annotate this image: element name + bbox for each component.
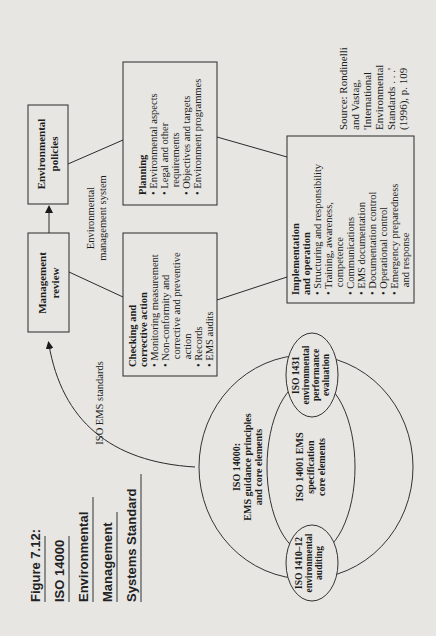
figure-number: Figure 7.12:: [28, 529, 43, 602]
svg-text:corrective and preventive: corrective and preventive: [171, 252, 182, 367]
figure-title: Figure 7.12: ISO 14000 Environmental Man…: [28, 474, 141, 602]
svg-text:ISO 14001 EMS: ISO 14001 EMS: [294, 432, 305, 501]
source-citation: Source: Rondinelli and Vastag, 'Internat…: [337, 47, 410, 130]
svg-text:ISO 1410–12: ISO 1410–12: [294, 537, 304, 589]
svg-text:environmental: environmental: [301, 345, 311, 404]
svg-text:corrective action: corrective action: [138, 292, 149, 367]
svg-text:and operation: and operation: [301, 232, 312, 295]
svg-text:competence: competence: [334, 237, 345, 295]
svg-text:specification: specification: [305, 440, 316, 494]
iso14000-outer-label: ISO 14000: EMS guidance principles and c…: [231, 413, 264, 520]
svg-text:and Vastag,: and Vastag,: [349, 79, 361, 130]
svg-text:ISO 1431: ISO 1431: [291, 356, 301, 394]
svg-text:Environmental: Environmental: [35, 119, 47, 190]
svg-text:Environmental: Environmental: [76, 512, 91, 602]
svg-text:Source: Rondinelli: Source: Rondinelli: [337, 47, 349, 130]
checking-to-review-line: [69, 272, 123, 297]
svg-text:auditing: auditing: [314, 546, 324, 580]
svg-text:• Legal and other: • Legal and other: [159, 122, 170, 195]
svg-text:• Records: • Records: [193, 326, 204, 367]
svg-text:Management: Management: [36, 252, 48, 314]
svg-text:evaluation: evaluation: [321, 353, 331, 396]
svg-text:ISO EMS standards: ISO EMS standards: [94, 361, 105, 444]
svg-text:Checking and: Checking and: [127, 305, 138, 367]
iso14000-diagram: Environmental policies Management review…: [0, 0, 436, 636]
svg-text:• Monitoring measurement: • Monitoring measurement: [149, 254, 160, 367]
svg-text:• Non-conformity and: • Non-conformity and: [160, 274, 171, 367]
svg-text:• EMS documentation: • EMS documentation: [356, 201, 367, 295]
svg-text:(1996), p. 109: (1996), p. 109: [397, 67, 410, 130]
svg-text:• Operational control: • Operational control: [378, 207, 389, 295]
svg-text:• Emergency preparedness: • Emergency preparedness: [389, 184, 400, 295]
svg-text:Planning: Planning: [137, 154, 148, 195]
planning-to-implementation-line: [217, 137, 287, 157]
svg-text:• Training, awareness,: • Training, awareness,: [323, 202, 334, 295]
svg-text:policies: policies: [48, 136, 60, 172]
svg-text:• Objectives and targets: • Objectives and targets: [181, 96, 192, 195]
implementation-text: Implementation and operation • Structuri…: [290, 163, 411, 295]
svg-text:• Environmental aspects: • Environmental aspects: [148, 93, 159, 195]
planning-text: Planning • Environmental aspects • Legal…: [137, 79, 203, 195]
svg-text:environmental: environmental: [304, 533, 314, 592]
svg-text:Systems Standard: Systems Standard: [124, 489, 139, 602]
svg-text:'International: 'International: [361, 72, 373, 130]
svg-text:management system: management system: [97, 175, 108, 260]
svg-text:Environmental: Environmental: [373, 65, 385, 130]
implementation-to-checking-line: [217, 277, 287, 300]
svg-text:• EMS audits: • EMS audits: [204, 311, 215, 367]
iso-ems-standards-label: ISO EMS standards: [94, 361, 105, 444]
svg-text:EMS guidance principles: EMS guidance principles: [242, 413, 253, 520]
svg-text:Management: Management: [100, 522, 115, 602]
svg-text:ISO 14000:: ISO 14000:: [231, 443, 242, 491]
svg-text:performance: performance: [311, 349, 321, 401]
environmental-policies-label: Environmental policies: [35, 119, 60, 190]
figure-page: Environmental policies Management review…: [0, 0, 436, 636]
svg-text:Standards . . .': Standards . . .': [385, 68, 397, 130]
svg-text:• Communications: • Communications: [345, 217, 356, 295]
svg-text:and core elements: and core elements: [253, 429, 264, 506]
svg-text:• Environment programmes: • Environment programmes: [192, 79, 203, 195]
policies-to-planning-line: [68, 140, 123, 164]
management-review-label: Management review: [36, 252, 61, 314]
iso14001-inner-label: ISO 14001 EMS specification core element…: [294, 432, 327, 501]
svg-text:Environmental: Environmental: [85, 187, 96, 249]
svg-text:requirements: requirements: [170, 132, 181, 195]
svg-text:• Structuring and responsibili: • Structuring and responsibility: [312, 163, 323, 295]
svg-text:ISO 14000: ISO 14000: [52, 540, 67, 602]
svg-text:Implementation: Implementation: [290, 223, 301, 295]
svg-text:and response: and response: [400, 232, 411, 295]
ems-label: Environmental management system: [85, 175, 108, 260]
svg-text:core elements: core elements: [316, 438, 327, 496]
svg-text:• Documentation control: • Documentation control: [367, 192, 378, 295]
svg-text:action: action: [182, 333, 193, 367]
svg-text:review: review: [49, 267, 61, 298]
checking-text: Checking and corrective action • Monitor…: [127, 252, 215, 367]
